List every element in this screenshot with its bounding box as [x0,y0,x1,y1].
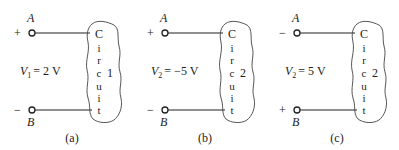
panel-b: A + − B V2= −5 V C i r c u i t 2 (b) [147,11,255,145]
terminal-a-polarity: + [14,26,21,40]
caption: (b) [198,131,212,145]
terminal-a-polarity: + [147,26,154,40]
circuit-blob-icon [220,21,255,122]
svg-text:i: i [97,92,100,104]
svg-text:i: i [230,42,233,54]
voltage-label: V2= −5 V [151,64,199,80]
circuit-diagram: A + − B V1= 2 V C i r c u i t 1 (a) A + … [0,0,399,150]
svg-text:t: t [230,104,233,116]
terminal-b-node-icon [162,107,168,113]
terminal-a-node-icon [294,30,300,36]
circuit-blob-icon [87,21,122,122]
svg-text:r: r [230,54,234,66]
svg-text:r: r [97,54,101,66]
svg-text:1: 1 [107,66,113,80]
panel-c: A − + B V2= 5 V C i r c u i t 2 (c) [279,11,387,145]
svg-text:u: u [361,80,367,92]
terminal-a-label: A [159,11,168,25]
panel-a: A + − B V1= 2 V C i r c u i t 1 (a) [14,11,122,145]
svg-text:u: u [229,80,235,92]
svg-text:c: c [97,67,102,79]
caption: (a) [65,131,78,145]
svg-text:i: i [362,42,365,54]
terminal-b-polarity: − [147,103,154,117]
svg-text:2: 2 [372,66,378,80]
svg-text:i: i [362,92,365,104]
terminal-b-node-icon [294,107,300,113]
terminal-b-polarity: + [279,103,286,117]
svg-text:c: c [230,67,235,79]
caption: (c) [330,131,343,145]
svg-text:t: t [362,104,365,116]
svg-text:C: C [95,27,103,41]
svg-text:i: i [97,42,100,54]
voltage-label: V1= 2 V [20,64,61,80]
circuit-text: C i r c u i t 2 [360,27,378,116]
terminal-a-label: A [26,11,35,25]
voltage-label: V2= 5 V [285,64,326,80]
circuit-text: C i r c u i t 1 [95,27,113,116]
circuit-blob-icon [352,21,387,122]
svg-text:2: 2 [240,66,246,80]
terminal-b-node-icon [29,107,35,113]
terminal-b-label: B [27,115,35,129]
svg-text:i: i [230,92,233,104]
terminal-b-label: B [160,115,168,129]
terminal-a-label: A [291,11,300,25]
terminal-b-polarity: − [14,103,21,117]
svg-text:c: c [362,67,367,79]
terminal-b-label: B [292,115,300,129]
terminal-a-node-icon [162,30,168,36]
circuit-text: C i r c u i t 2 [228,27,246,116]
svg-text:C: C [360,27,368,41]
terminal-a-node-icon [29,30,35,36]
svg-text:t: t [97,104,100,116]
svg-text:r: r [362,54,366,66]
svg-text:C: C [228,27,236,41]
terminal-a-polarity: − [279,26,286,40]
svg-text:u: u [96,80,102,92]
